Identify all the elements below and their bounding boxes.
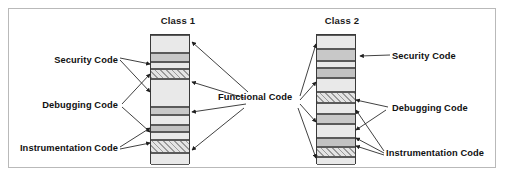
label-right-security-code: Security Code <box>392 51 504 61</box>
label-left-debugging-code: Debugging Code <box>10 100 118 110</box>
diagram-root: Class 1 Class 2 <box>0 0 512 187</box>
label-right-instrumentation-code: Instrumentation Code <box>386 148 510 158</box>
leader-lines-right <box>356 55 390 155</box>
label-left-instrumentation-code: Instrumentation Code <box>2 143 118 153</box>
label-center-functional-code: Functional Code <box>218 92 302 102</box>
label-left-security-code: Security Code <box>10 55 118 65</box>
leader-lines-left <box>120 58 150 149</box>
label-right-debugging-code: Debugging Code <box>392 103 504 113</box>
